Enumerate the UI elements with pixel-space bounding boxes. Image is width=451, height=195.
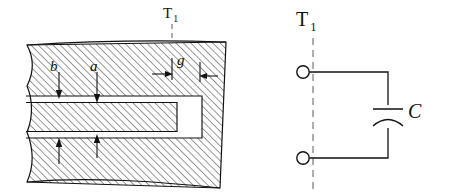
capacitor-plate-curved — [373, 120, 403, 127]
technical-diagram — [0, 0, 451, 195]
label-a: a — [90, 58, 98, 75]
label-T-subscript-left: 1 — [172, 13, 178, 24]
terminal-bottom — [297, 152, 309, 164]
label-T-right: T — [296, 8, 308, 30]
wire-bottom — [310, 128, 389, 158]
wire-top — [310, 72, 389, 105]
label-reference-plane-right: T1 — [296, 8, 316, 35]
terminal-top — [297, 66, 309, 78]
equivalent-circuit — [297, 38, 403, 190]
upper-gap — [26, 96, 186, 103]
waveguide-cross-section — [20, 24, 235, 195]
label-capacitor: C — [408, 100, 421, 123]
label-reference-plane-left: T1 — [163, 5, 178, 24]
label-g: g — [177, 52, 185, 69]
label-b: b — [50, 58, 58, 75]
capacitor-symbol — [373, 109, 403, 126]
label-T-subscript-right: 1 — [308, 20, 316, 34]
slot-end-cavity — [177, 96, 202, 138]
label-T-left: T — [163, 5, 172, 21]
